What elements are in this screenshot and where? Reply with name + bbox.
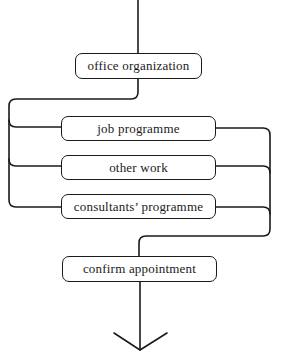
node-label: other work: [109, 160, 168, 176]
merge-other-out: [216, 166, 270, 173]
node-other-work: other work: [61, 155, 216, 180]
node-label: office organization: [88, 58, 190, 74]
branch-job-in: [9, 120, 61, 127]
node-confirm-appointment: confirm appointment: [62, 256, 217, 282]
merge-consultants-out: [216, 207, 270, 214]
node-office-organization: office organization: [75, 53, 202, 79]
split-connector: [9, 79, 138, 207]
merge-job-out: [139, 128, 270, 256]
node-consultants-programme: consultants’ programme: [61, 194, 216, 219]
node-job-programme: job programme: [61, 116, 216, 141]
node-label: consultants’ programme: [74, 199, 203, 215]
node-label: job programme: [97, 121, 179, 137]
branch-other-in: [9, 159, 61, 166]
node-label: confirm appointment: [83, 261, 196, 277]
